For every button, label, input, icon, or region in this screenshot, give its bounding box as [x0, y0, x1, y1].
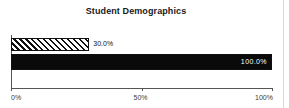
figure-right-border [283, 0, 284, 108]
bar-series-1 [11, 38, 89, 51]
bar-value-label-2: 100.0% [241, 58, 267, 65]
plot-area: 30.0% 100.0% [11, 35, 272, 88]
x-axis-tick-label: 50% [134, 94, 148, 101]
x-axis-tick-label: 100% [255, 94, 273, 101]
bar-value-label-1: 30.0% [93, 40, 113, 47]
chart-title: Student Demographics [0, 6, 272, 16]
x-axis-tick [142, 88, 143, 91]
bar-series-2 [11, 54, 272, 70]
x-axis-tick [11, 88, 12, 91]
x-axis-tick [272, 88, 273, 91]
x-axis-tick-label: 0% [11, 94, 21, 101]
bar-chart-figure: Student Demographics 30.0% 100.0% 0%50%1… [0, 0, 289, 108]
